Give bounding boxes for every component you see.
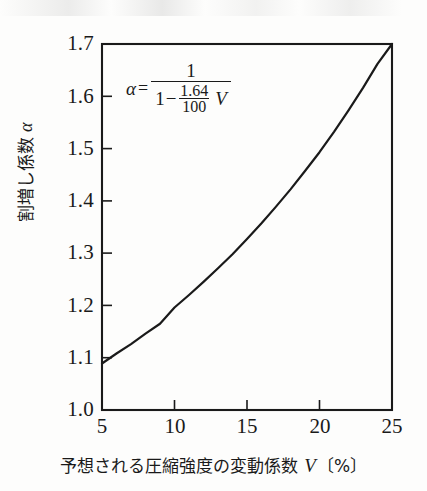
y-tick-label-1-2: 1.2 bbox=[42, 295, 94, 316]
formula-variable-v: V bbox=[211, 89, 227, 109]
formula-denominator-lead: 1 bbox=[155, 89, 165, 109]
formula-numerator: 1 bbox=[180, 62, 202, 81]
y-axis-title-text: 割増し係数 bbox=[16, 132, 36, 222]
x-axis-tick-labels: 5 10 15 20 25 bbox=[0, 415, 427, 445]
formula-annotation: α = 1 1 − 1.64 100 V bbox=[126, 62, 231, 115]
y-tick-label-1-6: 1.6 bbox=[42, 86, 94, 107]
formula-equals: = bbox=[137, 78, 151, 99]
formula-main-fraction: 1 1 − 1.64 100 V bbox=[151, 62, 231, 115]
x-tick-label-20: 20 bbox=[290, 415, 350, 437]
x-axis-ticks bbox=[102, 400, 392, 410]
formula-denominator: 1 − 1.64 100 V bbox=[151, 82, 231, 115]
x-axis-title-unit: 〔%〕 bbox=[317, 456, 367, 476]
x-axis-title-symbol: V bbox=[303, 455, 317, 476]
formula-inner-fraction: 1.64 100 bbox=[177, 83, 211, 115]
formula-minus-sign: − bbox=[165, 89, 178, 109]
formula-inner-numerator: 1.64 bbox=[179, 83, 209, 98]
y-tick-label-1-1: 1.1 bbox=[42, 347, 94, 368]
x-tick-label-25: 25 bbox=[362, 415, 422, 437]
x-axis-title: 予想される圧縮強度の変動係数 V〔%〕 bbox=[0, 452, 427, 477]
x-tick-label-15: 15 bbox=[217, 415, 277, 437]
y-axis-title-symbol: α bbox=[16, 123, 36, 132]
y-axis-title: 割増し係数 α bbox=[12, 73, 37, 273]
formula-lhs: α bbox=[126, 78, 137, 100]
x-tick-label-5: 5 bbox=[72, 415, 132, 437]
figure-canvas: 1.0 1.1 1.2 1.3 1.4 1.5 1.6 1.7 5 10 15 … bbox=[0, 0, 427, 491]
formula-inner-denominator: 100 bbox=[181, 99, 207, 115]
y-axis-ticks bbox=[102, 44, 112, 410]
y-tick-label-1-3: 1.3 bbox=[42, 242, 94, 263]
y-tick-label-1-5: 1.5 bbox=[42, 138, 94, 159]
x-axis-title-text: 予想される圧縮強度の変動係数 bbox=[60, 456, 303, 476]
y-tick-label-1-4: 1.4 bbox=[42, 190, 94, 211]
y-tick-label-1-7: 1.7 bbox=[42, 33, 94, 54]
x-tick-label-10: 10 bbox=[145, 415, 205, 437]
